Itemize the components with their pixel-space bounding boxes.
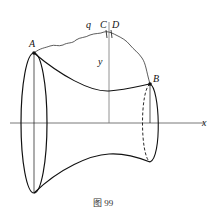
lower-generatrix [34, 154, 150, 193]
tick-c [106, 30, 107, 38]
label-y: y [97, 56, 103, 67]
label-a: A [28, 38, 36, 49]
point-b [148, 82, 152, 86]
curve-q [34, 32, 150, 84]
label-d: D [111, 19, 120, 30]
surface-of-revolution-diagram: A B q C D y x 图 99 [0, 0, 214, 210]
tick-d [111, 30, 112, 38]
figure-caption: 图 99 [93, 198, 114, 208]
label-c: C [100, 19, 107, 30]
label-q: q [86, 19, 91, 30]
label-b: B [153, 73, 159, 84]
label-x: x [201, 117, 207, 128]
point-a [32, 51, 36, 55]
upper-generatrix [34, 53, 150, 91]
